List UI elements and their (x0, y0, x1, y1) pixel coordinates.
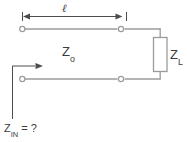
input-arrow-arrowhead (36, 63, 44, 69)
input-impedance-subscript: IN (11, 130, 18, 139)
terminal-top-left (20, 26, 25, 31)
load-impedance-resistor (154, 38, 168, 72)
input-impedance-label: ZIN = ? (4, 123, 37, 134)
dimension-left-arrowhead (23, 14, 30, 20)
characteristic-impedance-subscript: o (70, 54, 75, 64)
transmission-line-diagram: ℓ Zo ZL ZIN = ? (0, 0, 187, 142)
bottom-conductor-group (25, 71, 161, 80)
dimension-right-arrowhead (116, 14, 123, 20)
terminal-bottom-right (118, 76, 123, 81)
length-label: ℓ (62, 3, 67, 14)
top-conductor-group (25, 28, 161, 38)
input-impedance-question: = ? (18, 122, 37, 134)
load-impedance-label: ZL (170, 48, 183, 61)
characteristic-impedance-label: Zo (62, 45, 75, 58)
load-impedance-subscript: L (178, 57, 183, 67)
terminal-top-right (118, 26, 123, 31)
characteristic-impedance-symbol: Z (62, 44, 70, 59)
terminal-bottom-left (20, 76, 25, 81)
input-impedance-symbol: Z (4, 122, 11, 134)
load-impedance-symbol: Z (170, 47, 178, 62)
circuit-schematic-svg (0, 0, 187, 142)
length-dimension-group (23, 12, 127, 21)
input-impedance-arrow-group (12, 63, 43, 119)
